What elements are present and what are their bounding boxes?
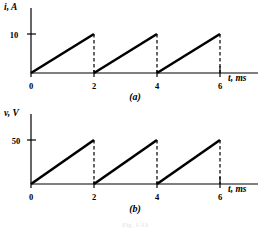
panel-a-ramp-1	[31, 34, 94, 73]
panel-b-y-axis-label: v, V	[4, 108, 20, 118]
panel-a-y-tick-label-10: 10	[10, 30, 19, 40]
panel-b-x-tick-label-0: 0	[29, 192, 33, 202]
panel-b-x-tick-label-6: 6	[218, 192, 222, 202]
figure-caption: Fig. 1-13	[122, 221, 149, 229]
figure-container: i, A t, ms 10 0 2 4 6 (a)	[0, 0, 267, 229]
panel-b-caption: (b)	[129, 203, 141, 215]
panel-b-ramp-2	[94, 140, 157, 184]
panel-a-x-tick-label-6: 6	[218, 81, 222, 91]
panel-b-x-tick-label-4: 4	[155, 192, 160, 202]
panel-b-ramp-1	[31, 140, 94, 184]
panel-b-ramp-3	[157, 140, 220, 184]
panel-a-y-axis-label: i, A	[4, 2, 17, 12]
panel-a-ramp-3	[157, 34, 220, 73]
panel-a-x-tick-label-2: 2	[92, 81, 96, 91]
panel-b-x-axis-label: t, ms	[228, 184, 247, 194]
panel-a-x-tick-label-0: 0	[29, 81, 33, 91]
panel-b-y-tick-label-50: 50	[12, 136, 21, 146]
waveform-figure: i, A t, ms 10 0 2 4 6 (a)	[0, 0, 267, 229]
panel-a-x-axis-label: t, ms	[228, 73, 247, 83]
chart-panel-b: v, V t, ms 50 0 2 4 6 (b)	[4, 108, 258, 215]
panel-a-caption: (a)	[129, 91, 141, 103]
panel-a-x-tick-label-4: 4	[155, 81, 160, 91]
chart-panel-a: i, A t, ms 10 0 2 4 6 (a)	[4, 2, 258, 103]
panel-b-x-tick-label-2: 2	[92, 192, 96, 202]
panel-a-ramp-2	[94, 34, 157, 73]
